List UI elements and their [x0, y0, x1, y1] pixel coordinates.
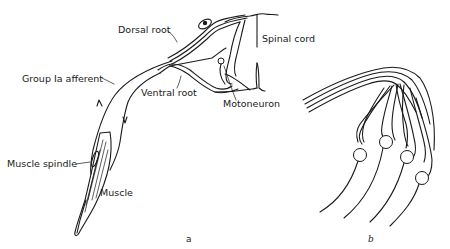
label-dorsal-root: Dorsal root — [118, 24, 171, 35]
motoneuron-cell-2 — [380, 136, 393, 149]
label-motoneuron: Motoneuron — [223, 98, 280, 109]
label-ventral-root: Ventral root — [141, 87, 197, 98]
motoneuron-cell-4 — [416, 172, 429, 185]
dorsal-root-nerve — [168, 15, 247, 84]
panel-b: b — [303, 67, 434, 244]
spinal-cord-outline — [215, 14, 278, 92]
motoneuron-cell-3 — [401, 151, 414, 164]
panel-a: Dorsal root Spinal cord Group Ia afferen… — [7, 14, 315, 244]
label-spinal-cord: Spinal cord — [262, 33, 315, 44]
panel-a-sublabel: a — [186, 234, 192, 244]
fibre-branches — [357, 84, 432, 178]
motoneuron-cell — [218, 58, 225, 84]
stretch-reflex-diagram: Dorsal root Spinal cord Group Ia afferen… — [0, 0, 450, 249]
label-muscle-spindle: Muscle spindle — [7, 158, 77, 169]
motoneuron-cell-1 — [354, 149, 367, 162]
label-muscle: Muscle — [100, 187, 133, 198]
arrow-up-icon — [97, 100, 102, 106]
muscle-body — [75, 132, 111, 236]
label-group-ia-afferent: Group Ia afferent — [22, 73, 103, 84]
motoneuron-cells — [354, 136, 429, 185]
panel-b-sublabel: b — [368, 234, 374, 244]
